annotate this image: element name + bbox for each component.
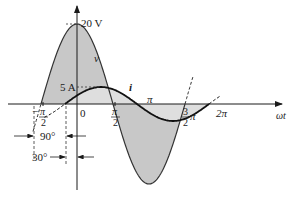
neg-half-pi-den: 2 <box>41 117 46 128</box>
omega-t-label: ωt <box>276 110 286 121</box>
zero-label: 0 <box>80 107 86 119</box>
diagram-canvas: 20 V v 5 A i − π 2 0 π 2 π 3 2 π 2π ωt 9… <box>0 0 294 206</box>
neg-half-pi-num: π <box>40 106 46 117</box>
three-half-den: 2 <box>183 117 188 128</box>
angle-30-label: 30° <box>32 151 47 163</box>
two-pi-label: 2π <box>216 107 228 119</box>
angle-90-label: 90° <box>40 130 55 142</box>
current-peak-label: 5 A <box>60 81 76 93</box>
pi-label: π <box>147 93 153 105</box>
half-pi-den: 2 <box>113 117 118 128</box>
three-half-num: 3 <box>183 106 188 117</box>
waveform-diagram: 20 V v 5 A i − π 2 0 π 2 π 3 2 π 2π ωt 9… <box>0 0 294 206</box>
neg-sign-label: − <box>32 105 38 117</box>
voltage-label: v <box>94 52 99 64</box>
voltage-peak-label: 20 V <box>81 17 103 29</box>
three-half-pi-symbol: π <box>190 110 196 122</box>
current-label: i <box>129 81 133 93</box>
